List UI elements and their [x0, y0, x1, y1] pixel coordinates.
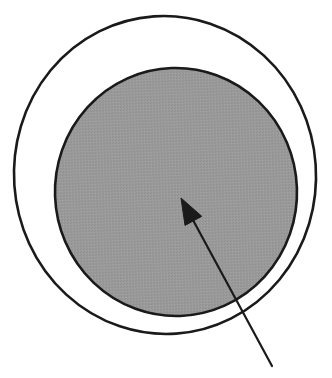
- diagram-canvas: [0, 0, 332, 378]
- figure-container: [0, 0, 332, 378]
